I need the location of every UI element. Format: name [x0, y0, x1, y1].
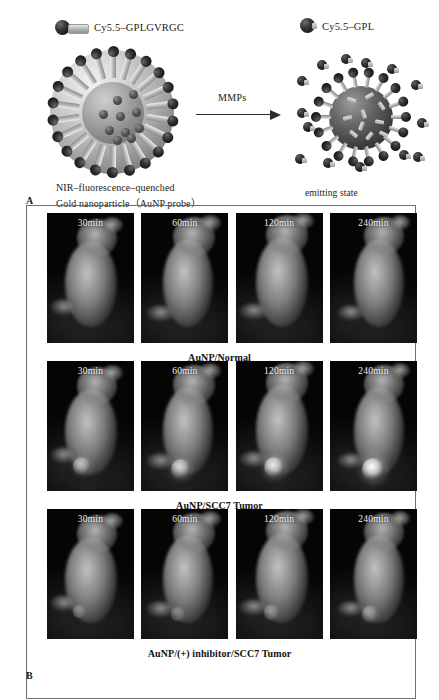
row-caption: AuNP/(+) inhibitor/SCC7 Tumor	[0, 648, 439, 659]
core-cy55-dot	[129, 90, 138, 99]
core-cy55-dot	[116, 112, 125, 121]
core-cy55-dot	[105, 126, 114, 135]
mouse-body-image	[236, 213, 323, 343]
core-cy55-dot	[127, 134, 136, 143]
nir-image-cell[interactable]: 120min	[236, 509, 323, 639]
tumor-fluorescence-spot	[73, 605, 86, 618]
nir-image-cell[interactable]: 30min	[47, 213, 134, 343]
nir-image-cell[interactable]: 120min	[236, 361, 323, 491]
mmps-cleavage-arrow: MMPs	[196, 92, 286, 126]
timepoint-label: 60min	[141, 514, 228, 524]
nir-image-cell[interactable]: 30min	[47, 509, 134, 639]
emitting-state-diagram	[295, 58, 427, 176]
panel-b-label: B	[26, 670, 33, 681]
mouse-body-image	[47, 361, 134, 491]
tumor-fluorescence-spot	[362, 606, 378, 622]
emitting-state-caption: emitting state	[305, 188, 358, 198]
core-cy55-dot	[113, 96, 122, 105]
panel-a-caption-line1: NIR–fluorescence–quenched	[56, 182, 175, 193]
timepoint-label: 240min	[330, 218, 417, 228]
mouse-body-image	[330, 213, 417, 343]
timepoint-label: 120min	[236, 366, 323, 376]
timepoint-label: 30min	[47, 218, 134, 228]
nir-image-cell[interactable]: 240min	[330, 509, 417, 639]
timepoint-label: 30min	[47, 514, 134, 524]
panel-b: 30min60min120min240minAuNP/Normal30min60…	[0, 205, 439, 700]
timepoint-label: 240min	[330, 366, 417, 376]
mouse-limb	[240, 303, 268, 319]
core-cy55-dot	[99, 110, 108, 119]
timepoint-label: 120min	[236, 218, 323, 228]
arrow-head-icon	[270, 110, 281, 120]
timepoint-label: 60min	[141, 218, 228, 228]
mouse-limb	[338, 305, 364, 320]
nir-image-cell[interactable]: 60min	[141, 509, 228, 639]
tumor-fluorescence-spot	[362, 458, 385, 481]
core-cy55-dot	[113, 136, 122, 145]
mouse-limb	[147, 305, 175, 321]
arrow-line	[196, 114, 274, 115]
timepoint-label: 60min	[141, 366, 228, 376]
cy55-gpl-fragment-icon	[300, 18, 317, 34]
timepoint-label: 240min	[330, 514, 417, 524]
legend-cy55-peptide-label: Cy5.5–GPLGVRGC	[94, 22, 184, 33]
tumor-fluorescence-spot	[264, 605, 279, 620]
mouse-limb	[338, 453, 364, 468]
core-cy55-dot	[135, 124, 144, 133]
legend-cy55-gpl-label: Cy5.5–GPL	[322, 21, 374, 32]
mouse-limb	[338, 601, 364, 616]
timepoint-label: 30min	[47, 366, 134, 376]
core-cy55-dot	[132, 108, 141, 117]
mouse-body-image	[47, 213, 134, 343]
nir-image-cell[interactable]: 120min	[236, 213, 323, 343]
nir-image-cell[interactable]: 60min	[141, 361, 228, 491]
mouse-limb	[51, 299, 77, 315]
legend-cy55-gpl: Cy5.5–GPL	[300, 18, 374, 34]
timepoint-label: 120min	[236, 514, 323, 524]
nir-image-cell[interactable]: 240min	[330, 213, 417, 343]
nir-image-cell[interactable]: 240min	[330, 361, 417, 491]
quenched-aunp-probe-diagram	[45, 48, 180, 176]
mouse-body-image	[47, 509, 134, 639]
mmps-arrow-label: MMPs	[218, 92, 246, 103]
panel-a: Cy5.5–GPLGVRGC Cy5.5–GPL MMPs NIR–fluore…	[0, 10, 439, 205]
mouse-body-image	[141, 213, 228, 343]
cy55-peptide-conjugate-icon	[55, 20, 89, 35]
mouse-body-image	[141, 509, 228, 639]
nir-image-cell[interactable]: 60min	[141, 213, 228, 343]
mouse-body-image	[236, 509, 323, 639]
mouse-limb	[51, 447, 77, 463]
legend-cy55-peptide: Cy5.5–GPLGVRGC	[55, 20, 184, 35]
tumor-fluorescence-spot	[73, 457, 91, 475]
tumor-fluorescence-spot	[171, 607, 185, 621]
nir-image-cell[interactable]: 30min	[47, 361, 134, 491]
cut-off-header-text: ·······························	[6, 0, 336, 4]
